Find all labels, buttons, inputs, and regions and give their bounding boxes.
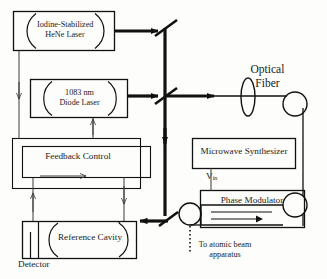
lower-turning-mirror-icon [159,212,178,226]
phase-modulator-label: Phase Modulator [203,196,301,206]
feedback-control-label: Feedback Control [23,152,133,162]
optical-fiber-label-line1: Optical [240,63,295,77]
optical-beam-paths [114,28,214,221]
detector-label: Detector [18,260,72,270]
diode-laser-label-line2: Diode Laser [54,98,105,108]
microwave-synthesizer-label: Microwave Synthesizer [194,147,294,157]
v-in-label-main: V [206,171,213,181]
v-in-label-sub: in [213,175,218,181]
hene-laser-label-line2: HeNe Laser [37,30,93,40]
fiber-loop-upper [283,92,307,116]
atomic-beam-label-line2: apparatus [186,250,264,260]
hene-laser-label-line1: Iodine-Stabilized [37,20,93,30]
diode-laser-label: 1083 nm Diode Laser [54,88,105,107]
fiber-loop-output [179,203,201,225]
atomic-beam-label: To atomic beam apparatus [186,240,264,259]
v-in-label: Vin [206,172,228,182]
reference-cavity-label: Reference Cavity [50,233,130,243]
optical-fiber-label-line2: Fiber [240,77,295,91]
optical-setup-diagram: Iodine-Stabilized HeNe Laser 1083 nm Dio… [0,0,327,279]
diode-laser-label-line1: 1083 nm [54,88,105,98]
control-signal-lines [19,51,211,222]
optical-fiber-label: Optical Fiber [240,63,295,90]
hene-laser-label: Iodine-Stabilized HeNe Laser [37,20,93,39]
atomic-beam-label-line1: To atomic beam [186,240,264,250]
phase-modulator-inner-arrow [211,216,263,223]
